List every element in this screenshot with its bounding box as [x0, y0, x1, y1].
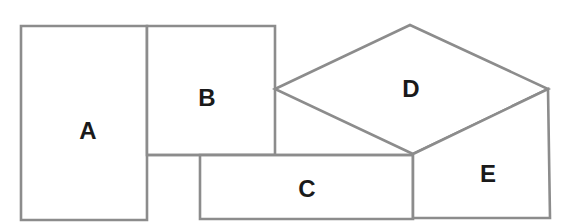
region-b-label: B — [198, 84, 215, 111]
region-shapes — [21, 25, 550, 220]
region-diagram: ABCDE — [0, 0, 573, 224]
region-d-label: D — [402, 75, 419, 102]
region-e-label: E — [480, 160, 496, 187]
region-a-label: A — [79, 117, 96, 144]
region-c-label: C — [298, 175, 315, 202]
